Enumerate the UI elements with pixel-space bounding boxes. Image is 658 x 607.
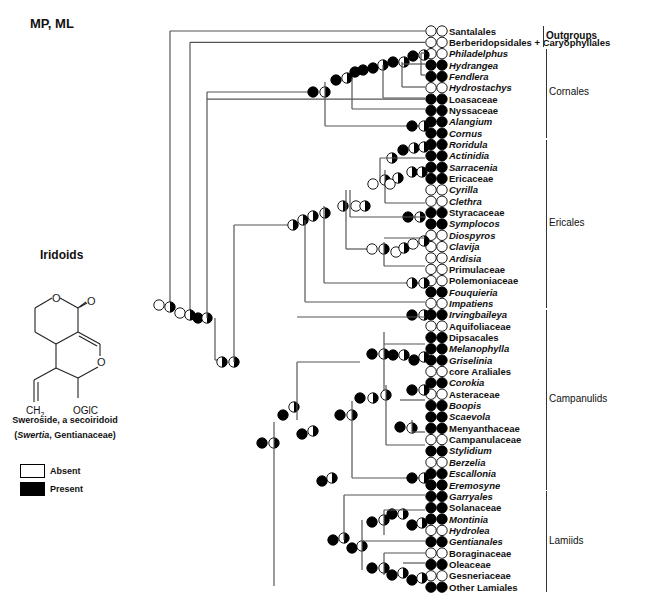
ambiguous-state-icon: [399, 350, 409, 360]
present-state-icon: [437, 503, 447, 513]
leaf-label: Irvingbaileya: [449, 309, 507, 320]
absent-state-icon: [426, 366, 436, 376]
present-state-icon: [358, 65, 368, 75]
leaf-label: Eremosyne: [449, 480, 500, 491]
leaf-label: Asteraceae: [449, 389, 500, 400]
present-state-icon: [426, 105, 436, 115]
ambiguous-state-icon: [288, 220, 298, 230]
ambiguous-state-icon: [327, 473, 337, 483]
absent-state-icon: [437, 196, 447, 206]
ambiguous-state-icon: [407, 167, 417, 177]
ambiguous-state-icon: [398, 568, 408, 578]
present-state-icon: [426, 173, 436, 183]
absent-state-icon: [437, 185, 447, 195]
leaf-label: Santalales: [449, 26, 496, 37]
present-state-icon: [398, 145, 408, 155]
present-state-icon: [437, 468, 447, 478]
leaf-label: Primulaceae: [449, 264, 505, 275]
absent-state-icon: [426, 457, 436, 467]
present-state-icon: [437, 446, 447, 456]
absent-state-icon: [437, 434, 447, 444]
present-state-icon: [409, 355, 419, 365]
present-state-icon: [437, 162, 447, 172]
absent-state-icon: [437, 548, 447, 558]
present-state-icon: [335, 410, 345, 420]
leaf-label: Stylidium: [449, 445, 492, 456]
group-bracket: [546, 310, 547, 490]
absent-state-icon: [426, 185, 436, 195]
present-state-icon: [426, 412, 436, 422]
ambiguous-state-icon: [407, 278, 417, 288]
present-state-icon: [426, 423, 436, 433]
present-state-icon: [426, 151, 436, 161]
leaf-label: Corokia: [449, 377, 484, 388]
present-state-icon: [426, 332, 436, 342]
present-state-icon: [437, 412, 447, 422]
absent-state-icon: [437, 264, 447, 274]
present-state-icon: [355, 393, 365, 403]
present-state-icon: [437, 105, 447, 115]
present-state-icon: [437, 94, 447, 104]
present-state-icon: [297, 429, 307, 439]
leaf-label: Cyrilla: [449, 184, 478, 195]
present-state-icon: [426, 503, 436, 513]
present-state-icon: [407, 575, 417, 585]
absent-state-icon: [426, 83, 436, 93]
present-state-icon: [426, 344, 436, 354]
leaf-label: Philadelphus: [449, 48, 508, 59]
leaf-label: Hydrostachys: [449, 82, 512, 93]
leaf-label: Berzelia: [449, 457, 485, 468]
absent-state-icon: [426, 434, 436, 444]
ambiguous-state-icon: [308, 426, 318, 436]
present-state-icon: [437, 378, 447, 388]
leaf-label: Clavija: [449, 241, 480, 252]
leaf-label: Polemoniaceae: [449, 275, 518, 286]
present-state-icon: [437, 151, 447, 161]
absent-state-icon: [408, 239, 418, 249]
absent-state-icon: [426, 548, 436, 558]
leaf-label: Other Lamiales: [449, 582, 518, 593]
absent-state-icon: [437, 389, 447, 399]
present-state-icon: [437, 60, 447, 70]
ambiguous-state-icon: [165, 302, 175, 312]
leaf-label: core Araliales: [449, 366, 511, 377]
leaf-label: Alangium: [449, 116, 492, 127]
absent-state-icon: [437, 230, 447, 240]
present-state-icon: [437, 139, 447, 149]
present-state-icon: [437, 514, 447, 524]
present-state-icon: [437, 173, 447, 183]
present-state-icon: [426, 60, 436, 70]
present-state-icon: [257, 438, 267, 448]
present-state-icon: [437, 491, 447, 501]
absent-state-icon: [437, 253, 447, 263]
present-state-icon: [437, 219, 447, 229]
present-state-icon: [437, 207, 447, 217]
leaf-label: Dipsacales: [449, 332, 499, 343]
present-state-icon: [407, 310, 417, 320]
ambiguous-state-icon: [419, 385, 429, 395]
ambiguous-state-icon: [417, 167, 427, 177]
group-label: Campanulids: [549, 393, 607, 404]
absent-state-icon: [426, 321, 436, 331]
leaf-label: Gesneriaceae: [449, 570, 511, 581]
present-state-icon: [437, 71, 447, 81]
leaf-label: Oleaceae: [449, 559, 491, 570]
group-bracket: [546, 49, 547, 138]
absent-state-icon: [426, 26, 436, 36]
leaf-label: Ericaceae: [449, 173, 493, 184]
present-state-icon: [437, 332, 447, 342]
ambiguous-state-icon: [399, 57, 409, 67]
absent-state-icon: [437, 571, 447, 581]
present-state-icon: [426, 219, 436, 229]
absent-state-icon: [368, 179, 378, 189]
present-state-icon: [426, 207, 436, 217]
leaf-label: Gentianales: [449, 536, 503, 547]
ambiguous-state-icon: [419, 310, 429, 320]
leaf-label: Montinia: [449, 514, 488, 525]
leaf-label: Boraginaceae: [449, 548, 511, 559]
group-label: Outgroups: [546, 30, 597, 41]
leaf-label: Garryales: [449, 491, 493, 502]
present-state-icon: [367, 517, 377, 527]
present-state-icon: [328, 535, 338, 545]
absent-state-icon: [426, 196, 436, 206]
